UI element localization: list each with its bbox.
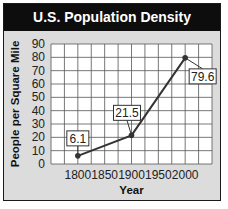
data-label: 21.5: [115, 106, 139, 120]
y-tick-label: 70: [32, 64, 46, 78]
y-tick-label: 0: [38, 157, 45, 171]
data-point: [75, 153, 81, 159]
y-axis-title: People per Square Mile: [9, 41, 21, 168]
y-tick-label: 50: [32, 90, 46, 104]
x-axis-title: Year: [119, 184, 144, 196]
x-tick-label: 1950: [145, 168, 172, 182]
line-chart: 010203040506070809018001850190019502000Y…: [0, 0, 228, 209]
y-tick-label: 60: [32, 77, 46, 91]
y-tick-label: 40: [32, 104, 46, 118]
x-tick-label: 1850: [91, 168, 118, 182]
y-tick-label: 90: [32, 37, 46, 51]
x-tick-label: 1800: [64, 168, 91, 182]
y-tick-label: 80: [32, 50, 46, 64]
data-label: 79.6: [191, 70, 215, 84]
data-point: [129, 133, 135, 139]
x-tick-label: 2000: [172, 168, 199, 182]
y-tick-label: 30: [32, 117, 46, 131]
data-point: [182, 55, 188, 61]
y-tick-label: 20: [32, 130, 46, 144]
x-tick-label: 1900: [118, 168, 145, 182]
data-label: 6.1: [69, 132, 86, 146]
y-tick-label: 10: [32, 144, 46, 158]
